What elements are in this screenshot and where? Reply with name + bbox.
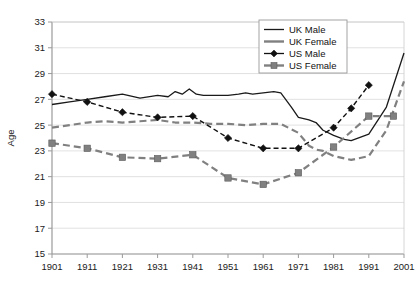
y-tick-label-15: 15 — [34, 248, 45, 259]
y-tick-label-33: 33 — [34, 16, 45, 27]
chart-container: 15171921232527293133Age19011911192119311… — [0, 0, 420, 297]
series-line-uk-female — [52, 81, 404, 160]
x-tick-label-2001: 2001 — [393, 261, 414, 272]
series-line-us-female — [52, 116, 393, 184]
x-tick-label-1911: 1911 — [77, 261, 97, 272]
marker-us-female-1941 — [190, 152, 196, 158]
y-tick-label-21: 21 — [34, 171, 45, 182]
legend-label-us-female: US Female — [289, 60, 337, 71]
marker-us-female-1901 — [49, 140, 55, 146]
marker-us-male-1901 — [48, 91, 55, 98]
legend: UK MaleUK FemaleUS MaleUS Female — [259, 20, 347, 73]
x-tick-label-1991: 1991 — [358, 261, 379, 272]
marker-us-male-1991 — [365, 82, 372, 89]
y-tick-label-29: 29 — [34, 68, 45, 79]
marker-us-female-1971 — [295, 170, 301, 176]
data-series-group — [52, 53, 404, 184]
marker-us-female-1998 — [390, 113, 396, 119]
x-tick-label-1971: 1971 — [288, 261, 309, 272]
marker-us-female-1931 — [154, 155, 160, 161]
x-tick-label-1901: 1901 — [41, 261, 62, 272]
marker-us-male-1951 — [224, 134, 231, 141]
marker-us-female-1981 — [330, 144, 336, 150]
legend-label-us-male: US Male — [289, 48, 325, 59]
marker-us-female-1991 — [366, 113, 372, 119]
marker-us-female-1921 — [119, 154, 125, 160]
x-tick-label-1941: 1941 — [182, 261, 203, 272]
y-tick-label-23: 23 — [34, 145, 45, 156]
marker-us-female-1961 — [260, 181, 266, 187]
marker-us-female-1951 — [225, 175, 231, 181]
series-line-uk-male — [52, 53, 404, 141]
x-tick-label-1961: 1961 — [253, 261, 274, 272]
legend-marker-us-female — [271, 63, 277, 69]
x-tick-label-1951: 1951 — [217, 261, 238, 272]
marker-us-male-1921 — [119, 109, 126, 116]
y-tick-label-19: 19 — [34, 197, 45, 208]
y-axis: 15171921232527293133 — [34, 16, 52, 259]
x-tick-label-1931: 1931 — [147, 261, 168, 272]
line-chart: 15171921232527293133Age19011911192119311… — [0, 0, 420, 297]
y-tick-label-25: 25 — [34, 120, 45, 131]
marker-us-female-1911 — [84, 145, 90, 151]
y-tick-label-27: 27 — [34, 94, 45, 105]
y-axis-title: Age — [5, 130, 16, 147]
y-tick-label-17: 17 — [34, 223, 45, 234]
x-axis: 1901191119211931194119511961197119811991… — [41, 254, 414, 272]
series-line-us-male — [52, 85, 369, 148]
marker-us-male-1941 — [189, 112, 196, 119]
x-tick-label-1921: 1921 — [112, 261, 133, 272]
y-tick-label-31: 31 — [34, 42, 45, 53]
x-tick-label-1981: 1981 — [323, 261, 344, 272]
legend-label-uk-male: UK Male — [289, 24, 325, 35]
legend-label-uk-female: UK Female — [289, 36, 337, 47]
